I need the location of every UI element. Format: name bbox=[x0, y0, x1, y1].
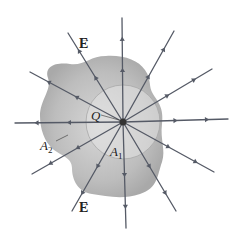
surface-a2-label: A2 bbox=[40, 139, 52, 155]
charge-label: Q bbox=[91, 109, 100, 122]
vector-arrow-icon: → bbox=[80, 34, 90, 44]
arrowhead-icon bbox=[173, 118, 177, 123]
vector-arrow-icon: → bbox=[80, 198, 90, 208]
arrowhead-icon bbox=[120, 37, 125, 41]
field-label-top: → E bbox=[79, 37, 88, 51]
field-label-bottom: → E bbox=[79, 201, 88, 215]
surface-a1-label: A1 bbox=[110, 145, 122, 161]
arrowhead-icon bbox=[123, 205, 128, 209]
gauss-law-diagram bbox=[0, 0, 235, 237]
arrowhead-icon bbox=[34, 120, 38, 125]
point-charge bbox=[120, 119, 127, 126]
arrowhead-icon bbox=[205, 117, 209, 122]
